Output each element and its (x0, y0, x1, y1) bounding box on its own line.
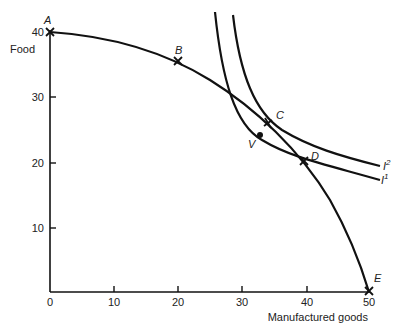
y-tick-label: 10 (32, 222, 44, 234)
point-labels: A B C D E V (43, 14, 382, 284)
y-tick-label: 20 (32, 157, 44, 169)
indifference-labels: I2 I1 (381, 158, 391, 186)
i1-label-sup: 1 (384, 172, 388, 181)
y-tick-label: 30 (32, 91, 44, 103)
point-d-label: D (311, 150, 319, 162)
point-v-marker (257, 132, 263, 138)
x-tick-label: 40 (301, 296, 313, 308)
point-markers (46, 28, 373, 295)
i1-label: I1 (381, 172, 389, 186)
x-tick-label: 20 (172, 296, 184, 308)
point-c-label: C (276, 109, 284, 121)
ppf-chart: 40 30 20 10 0 10 20 30 40 50 Food Manufa… (0, 0, 405, 330)
y-tick-label: 40 (32, 26, 44, 38)
y-tick-labels: 40 30 20 10 (32, 26, 44, 234)
x-tick-label: 0 (47, 296, 53, 308)
x-tick-labels: 0 10 20 30 40 50 (47, 296, 375, 308)
ppf-curve (50, 32, 369, 292)
point-e-label: E (374, 272, 382, 284)
point-b-label: B (175, 44, 182, 56)
x-tick-label: 50 (363, 296, 375, 308)
y-axis-title: Food (10, 43, 35, 55)
point-a-label: A (43, 14, 51, 26)
x-axis-title: Manufactured goods (268, 311, 369, 323)
point-e-marker (365, 287, 373, 295)
i2-label: I2 (383, 158, 391, 172)
x-tick-label: 30 (236, 296, 248, 308)
i2-label-sup: 2 (385, 158, 391, 167)
axes (50, 30, 370, 292)
x-tick-label: 10 (108, 296, 120, 308)
point-v-label: V (248, 138, 257, 150)
